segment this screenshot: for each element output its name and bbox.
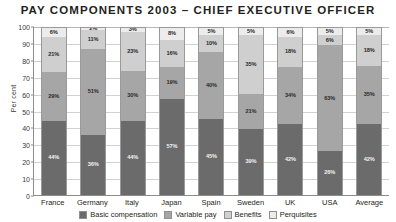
bar-value-label: 6% <box>286 30 294 36</box>
x-axis-label: Sweden <box>231 198 271 210</box>
legend-label: Perquisites <box>280 210 317 219</box>
bar-value-label: 57% <box>167 144 178 150</box>
bar-column[interactable]: 6%21%29%44% <box>41 27 67 195</box>
x-axis-label: USA <box>310 198 350 210</box>
bar-value-label: 21% <box>48 52 59 58</box>
bar-segment[interactable]: 5% <box>317 27 343 35</box>
bar-value-label: 63% <box>324 96 335 102</box>
bar-segment[interactable]: 35% <box>238 35 264 94</box>
y-tick-label: 100 <box>18 24 30 31</box>
bar-segment[interactable]: 63% <box>317 45 343 151</box>
bar-segment[interactable]: 6% <box>277 27 303 37</box>
y-tick-label: 90 <box>22 40 30 47</box>
bar-segment[interactable]: 10% <box>198 35 224 52</box>
bar-value-label: 18% <box>285 49 296 55</box>
bar-segment[interactable]: 51% <box>80 49 106 135</box>
bar-segment[interactable]: 5% <box>238 27 264 35</box>
bar-segment[interactable]: 39% <box>238 129 264 195</box>
y-tick-label: 80 <box>22 57 30 64</box>
bar-value-label: 30% <box>127 93 138 99</box>
y-tick-label: 50 <box>22 108 30 115</box>
bar-value-label: 39% <box>245 159 256 165</box>
legend-item[interactable]: Benefits <box>224 210 262 219</box>
bar-value-label: 26% <box>324 170 335 176</box>
bar-segment[interactable]: 44% <box>120 121 146 195</box>
legend-label: Variable pay <box>175 210 216 219</box>
bar-segment[interactable]: 18% <box>356 35 382 65</box>
y-tick-label: 0 <box>26 193 30 200</box>
bar-value-label: 19% <box>167 80 178 86</box>
bar-segment[interactable]: 19% <box>159 67 185 99</box>
x-axis-label: Average <box>350 198 390 210</box>
bar-value-label: 5% <box>365 29 373 35</box>
bar-value-label: 5% <box>247 29 255 35</box>
bar-column[interactable]: 6%18%34%42% <box>277 27 303 195</box>
bar-segment[interactable]: 26% <box>317 151 343 195</box>
bar-segment[interactable]: 42% <box>277 124 303 195</box>
bar-segment[interactable]: 44% <box>41 121 67 195</box>
bar-column[interactable]: 5%6%63%26% <box>317 27 343 195</box>
bar-value-label: 44% <box>48 155 59 161</box>
x-axis-label: Spain <box>191 198 231 210</box>
bar-value-label: 34% <box>285 93 296 99</box>
legend-swatch <box>164 211 172 219</box>
bar-segment[interactable]: 30% <box>120 71 146 121</box>
bar-segment[interactable]: 42% <box>356 124 382 195</box>
x-axis-label: Italy <box>112 198 152 210</box>
bar-segment[interactable]: 8% <box>159 27 185 40</box>
bar-value-label: 42% <box>285 157 296 163</box>
bar-segment[interactable]: 36% <box>80 135 106 195</box>
bar-value-label: 35% <box>364 92 375 98</box>
legend-item[interactable]: Perquisites <box>269 210 317 219</box>
bar-value-label: 35% <box>245 62 256 68</box>
bar-column[interactable]: 2%11%51%36% <box>80 27 106 195</box>
bar-column[interactable]: 5%18%35%42% <box>356 27 382 195</box>
bar-segment[interactable]: 45% <box>198 119 224 195</box>
bar-segment[interactable]: 18% <box>277 37 303 67</box>
y-axis-title: Per cent <box>10 69 17 129</box>
x-axis-labels: FranceGermanyItalyJapanSpainSwedenUKUSAA… <box>33 198 389 210</box>
bar-value-label: 29% <box>48 94 59 100</box>
bar-column[interactable]: 5%10%40%45% <box>198 27 224 195</box>
bar-column[interactable]: 3%23%30%44% <box>120 27 146 195</box>
bar-value-label: 44% <box>127 155 138 161</box>
bar-value-label: 42% <box>364 157 375 163</box>
bar-value-label: 21% <box>245 109 256 115</box>
bar-column[interactable]: 5%35%21%39% <box>238 27 264 195</box>
bar-segment[interactable]: 21% <box>41 37 67 72</box>
y-tick-mark <box>31 196 34 197</box>
bar-value-label: 51% <box>88 89 99 95</box>
bar-value-label: 36% <box>88 162 99 168</box>
bar-value-label: 10% <box>206 41 217 47</box>
bar-segment[interactable]: 29% <box>41 72 67 121</box>
legend-item[interactable]: Variable pay <box>164 210 216 219</box>
x-axis-label: UK <box>270 198 310 210</box>
bar-value-label: 23% <box>127 49 138 55</box>
y-tick-label: 40 <box>22 125 30 132</box>
bar-segment[interactable]: 34% <box>277 67 303 124</box>
bar-segment[interactable]: 57% <box>159 99 185 195</box>
chart-container: PAY COMPONENTS 2003 – CHIEF EXECUTIVE OF… <box>0 0 396 222</box>
legend-swatch <box>79 211 87 219</box>
bar-segment[interactable]: 5% <box>356 27 382 35</box>
bar-value-label: 6% <box>50 30 58 36</box>
legend-swatch <box>269 211 277 219</box>
bar-segment[interactable]: 21% <box>238 94 264 129</box>
legend-item[interactable]: Basic compensation <box>79 210 157 219</box>
bar-segment[interactable]: 40% <box>198 52 224 119</box>
bar-column[interactable]: 8%16%19%57% <box>159 27 185 195</box>
bar-segment[interactable]: 23% <box>120 32 146 71</box>
x-axis-label: Japan <box>152 198 192 210</box>
bar-segment[interactable]: 5% <box>198 27 224 35</box>
x-axis-label: Germany <box>73 198 113 210</box>
legend: Basic compensationVariable payBenefitsPe… <box>0 210 396 219</box>
bar-value-label: 18% <box>364 48 375 54</box>
bar-segment[interactable]: 35% <box>356 66 382 125</box>
legend-swatch <box>224 211 232 219</box>
chart-title: PAY COMPONENTS 2003 – CHIEF EXECUTIVE OF… <box>0 4 396 16</box>
bar-segment[interactable]: 6% <box>317 35 343 45</box>
bar-segment[interactable]: 16% <box>159 40 185 67</box>
bar-segment[interactable]: 11% <box>80 30 106 48</box>
bar-value-label: 40% <box>206 83 217 89</box>
bar-segment[interactable]: 6% <box>41 27 67 37</box>
